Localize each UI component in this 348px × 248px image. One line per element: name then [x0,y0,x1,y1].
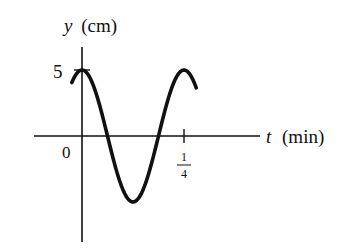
y-axis-label: y (cm) [62,15,117,37]
y-unit: (cm) [81,15,117,37]
x-var: t [266,126,272,147]
y-tick-label-5: 5 [53,61,63,82]
x-unit: (min) [282,126,324,148]
x-tick-label-numerator: 1 [181,150,187,164]
origin-label: 0 [62,143,71,162]
x-tick-label-denominator: 4 [181,167,187,181]
chart: y (cm) t (min) 5 0 1 4 [0,0,348,248]
x-axis-label: t (min) [266,126,324,148]
y-var: y [62,15,73,36]
